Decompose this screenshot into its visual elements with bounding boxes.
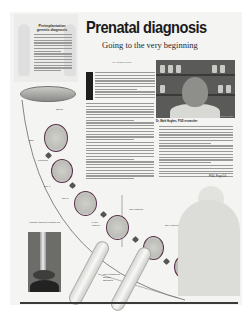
text-line xyxy=(34,42,72,43)
text-line xyxy=(95,78,155,79)
sidebar-box: Preimplantation genetic diagnosis xyxy=(14,14,78,82)
text-line xyxy=(159,159,233,160)
text-line xyxy=(95,72,155,73)
text-line xyxy=(86,148,154,149)
text-line xyxy=(159,126,233,127)
photo-caption: Dr. Mark Hughes, PGD researcher xyxy=(156,120,235,123)
text-line xyxy=(86,170,154,171)
text-line xyxy=(95,86,155,87)
text-line xyxy=(86,159,134,160)
text-line xyxy=(34,51,61,52)
text-line xyxy=(86,142,154,143)
photo-credit: GLOBE STAFF PHOTO xyxy=(217,116,233,117)
embryo-2-cell xyxy=(74,191,97,216)
text-line xyxy=(95,89,137,90)
bottle xyxy=(160,85,165,93)
text-line xyxy=(34,34,72,35)
bottle xyxy=(176,65,181,73)
text-line xyxy=(86,164,154,165)
text-line xyxy=(34,45,72,46)
text-line xyxy=(159,162,211,163)
article-body-top xyxy=(95,72,155,100)
text-line xyxy=(159,168,233,169)
label-day3: Day 3 xyxy=(62,198,74,201)
text-line xyxy=(95,80,155,81)
text-line xyxy=(86,122,154,123)
text-line xyxy=(34,59,72,60)
shelf xyxy=(156,74,235,76)
doctor-photo: GLOBE STAFF PHOTO xyxy=(156,60,235,118)
embryo-8-cell xyxy=(106,215,129,240)
text-line xyxy=(86,106,154,107)
text-line xyxy=(34,37,72,38)
text-line xyxy=(95,94,155,95)
text-line xyxy=(159,134,233,135)
sidebar-body xyxy=(34,34,72,78)
text-line xyxy=(95,97,155,98)
text-line xyxy=(34,70,61,71)
pipette-needle xyxy=(40,232,46,272)
text-line xyxy=(86,120,134,121)
text-line xyxy=(159,140,233,141)
bottle xyxy=(212,65,217,73)
pipette-micrograph xyxy=(28,232,61,292)
bottle xyxy=(226,85,231,93)
text-line xyxy=(86,153,154,154)
woman-torso-silhouette xyxy=(178,200,240,296)
text-line xyxy=(34,67,72,68)
petri-dish xyxy=(20,86,76,102)
text-line xyxy=(86,139,134,140)
text-line xyxy=(86,136,154,137)
text-line xyxy=(95,83,155,84)
embryo-egg xyxy=(44,124,68,152)
text-line xyxy=(159,157,233,158)
text-line xyxy=(159,137,233,138)
label-8-cell: 8-cell embryo xyxy=(92,222,106,228)
text-line xyxy=(34,40,72,41)
text-line xyxy=(159,171,233,172)
text-line xyxy=(159,154,233,155)
text-line xyxy=(86,125,154,126)
text-line xyxy=(159,132,233,133)
text-line xyxy=(34,53,72,54)
bottle xyxy=(168,65,173,73)
text-line xyxy=(86,131,154,132)
text-line xyxy=(95,75,155,76)
text-line xyxy=(86,156,154,157)
label-egg: Egg xyxy=(29,140,33,143)
text-line xyxy=(86,161,154,162)
cell-cluster xyxy=(33,270,55,280)
label-pipette-caption: A pipette removes a single cell xyxy=(28,222,62,225)
text-line xyxy=(159,151,233,152)
byline: By Richard Saltus xyxy=(102,61,142,64)
text-line xyxy=(159,148,233,149)
text-line xyxy=(159,145,233,146)
text-line xyxy=(86,117,154,118)
doctor-face xyxy=(182,77,208,107)
article-body-main xyxy=(86,103,154,181)
text-line xyxy=(86,128,154,129)
text-line xyxy=(86,109,154,110)
text-line xyxy=(86,111,154,112)
bottle xyxy=(218,85,223,93)
bottle xyxy=(220,65,225,73)
text-line xyxy=(159,143,211,144)
label-sperm: Sperm xyxy=(56,109,63,112)
female-silhouette-icon xyxy=(18,24,30,76)
embryo-dome xyxy=(30,280,59,292)
text-line xyxy=(86,103,154,104)
jump-line: PGD, Page D4 xyxy=(209,175,226,178)
text-line xyxy=(34,56,72,57)
subheadline: Going to the very beginning xyxy=(102,41,232,50)
text-line xyxy=(86,114,154,115)
text-line xyxy=(159,129,233,130)
embryo-fertilized xyxy=(51,159,73,183)
text-line xyxy=(86,167,154,168)
text-line xyxy=(86,134,154,135)
text-line xyxy=(159,165,233,166)
label-cell-removed: Cell removed xyxy=(129,209,145,212)
text-line xyxy=(86,150,154,151)
text-line xyxy=(86,175,154,176)
text-line xyxy=(95,91,155,92)
bottle xyxy=(160,65,165,73)
